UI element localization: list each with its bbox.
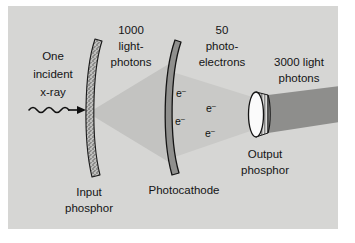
output-light-beam: [268, 86, 340, 133]
output-phosphor-disc: [249, 92, 271, 137]
light-photons-label: 1000 light- photons: [111, 24, 152, 68]
output-light-photons-label: 3000 light photons: [274, 56, 325, 84]
diagram-canvas: e– e– e– e– One incident x-ray 1000 ligh…: [0, 0, 355, 243]
photoelectrons-line-1: 50: [216, 24, 229, 36]
light-photon-cone: [88, 62, 172, 164]
figure-root: e– e– e– e– One incident x-ray 1000 ligh…: [0, 0, 355, 243]
output-phosphor-line-1: Output: [248, 148, 283, 160]
input-phosphor-line-1: Input: [76, 186, 102, 198]
input-phosphor-label: Input phosphor: [65, 186, 113, 214]
photoelectrons-label: 50 photo- electrons: [199, 24, 246, 68]
output-light-photons-line-2: photons: [279, 72, 320, 84]
incident-xray-line-2: incident: [33, 68, 73, 80]
output-light-photons-line-1: 3000 light: [274, 56, 325, 68]
light-photons-line-1: 1000: [118, 24, 144, 36]
incident-xray-line-3: x-ray: [40, 86, 66, 98]
light-photons-line-2: light-: [119, 40, 144, 52]
photocathode-label: Photocathode: [149, 184, 220, 196]
light-photons-line-3: photons: [111, 56, 152, 68]
incident-xray-label: One incident x-ray: [33, 50, 73, 98]
input-phosphor-line-2: phosphor: [65, 202, 113, 214]
wavy-xray-arrow: [29, 106, 86, 114]
output-phosphor-label: Output phosphor: [241, 148, 289, 176]
photocathode-line-1: Photocathode: [149, 184, 220, 196]
photoelectrons-line-3: electrons: [199, 56, 246, 68]
output-phosphor-line-2: phosphor: [241, 164, 289, 176]
incident-xray-line-1: One: [42, 50, 64, 62]
photoelectrons-line-2: photo-: [206, 40, 239, 52]
